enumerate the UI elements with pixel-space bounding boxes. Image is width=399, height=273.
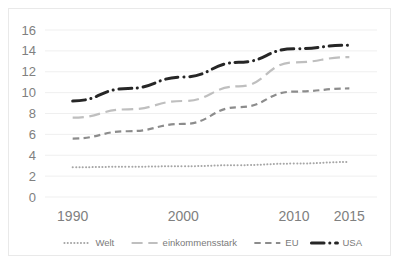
line-chart: 0246810121416 1990200020102015 Welteinko…	[0, 0, 399, 273]
chart-legend: WelteinkommensstarkEUUSA	[64, 237, 362, 248]
legend-label-usa[interactable]: USA	[342, 237, 362, 248]
x-axis-tick-label: 2010	[278, 208, 309, 224]
y-axis-tick-label: 12	[22, 64, 36, 79]
series-lines	[73, 45, 350, 167]
y-axis-tick-label: 8	[29, 106, 36, 121]
series-line-einkommensstark	[73, 57, 350, 118]
y-axis-tick-label: 14	[22, 43, 36, 58]
chart-figure: 0246810121416 1990200020102015 Welteinko…	[0, 0, 399, 273]
legend-label-eu[interactable]: EU	[285, 237, 298, 248]
y-axis-tick-label: 2	[29, 169, 36, 184]
y-axis-tick-label: 10	[22, 85, 36, 100]
y-axis-tick-label: 4	[29, 148, 36, 163]
gridlines	[45, 30, 377, 197]
y-axis-tick-label: 16	[22, 23, 36, 38]
y-axis-tick-label: 6	[29, 127, 36, 142]
x-axis-tick-label: 1990	[57, 208, 88, 224]
x-axis-tick-label: 2015	[334, 208, 365, 224]
x-axis-tick-labels: 1990200020102015	[57, 208, 365, 224]
series-line-welt	[73, 162, 350, 167]
x-axis-tick-label: 2000	[168, 208, 199, 224]
legend-label-welt[interactable]: Welt	[95, 237, 114, 248]
legend-label-einkommensstark[interactable]: einkommensstark	[163, 237, 238, 248]
y-axis-tick-label: 0	[29, 190, 36, 205]
y-axis-tick-labels: 0246810121416	[22, 23, 36, 205]
